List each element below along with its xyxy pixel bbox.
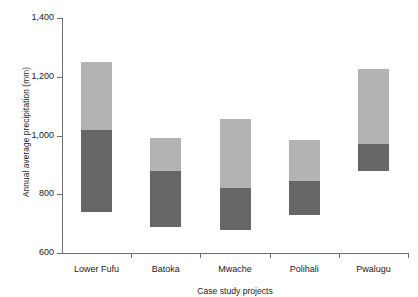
x-axis-tick-mark xyxy=(339,253,340,258)
bar-segment-lower xyxy=(220,188,251,229)
bar-batoka xyxy=(150,138,181,226)
bar-segment-upper xyxy=(289,140,320,181)
x-axis-category-label: Pwalugu xyxy=(339,264,408,274)
bar-polihali xyxy=(289,140,320,215)
precipitation-bar-chart: Annual average precipitation (mm) 600800… xyxy=(0,0,418,297)
y-axis-tick-label: 600 xyxy=(39,248,54,257)
y-axis-line xyxy=(62,18,63,254)
x-axis-category-label: Mwache xyxy=(200,264,269,274)
bar-mwache xyxy=(220,119,251,229)
bar-lower-fufu xyxy=(81,62,112,212)
x-axis-title: Case study projects xyxy=(62,286,408,296)
bar-pwalugu xyxy=(358,69,389,170)
bar-segment-upper xyxy=(358,69,389,144)
y-axis-tick-label: 1,400 xyxy=(31,13,54,22)
x-axis-tick-mark xyxy=(408,253,409,258)
y-axis-tick-label: 800 xyxy=(39,189,54,198)
bar-segment-lower xyxy=(150,171,181,227)
bar-segment-upper xyxy=(150,138,181,170)
y-axis-tick-label: 1,200 xyxy=(31,72,54,81)
bar-segment-lower xyxy=(358,144,389,170)
x-axis-tick-mark xyxy=(270,253,271,258)
y-axis-tick-mark xyxy=(57,136,62,137)
x-axis-category-label: Batoka xyxy=(131,264,200,274)
bar-segment-upper xyxy=(81,62,112,130)
y-axis-title: Annual average precipitation (mm) xyxy=(21,32,31,232)
x-axis-tick-mark xyxy=(200,253,201,258)
bar-segment-lower xyxy=(81,130,112,212)
y-axis-tick-mark xyxy=(57,194,62,195)
y-axis-tick-mark xyxy=(57,77,62,78)
x-axis-category-label: Polihali xyxy=(270,264,339,274)
x-axis-line xyxy=(62,253,408,254)
x-axis-tick-mark xyxy=(131,253,132,258)
y-axis-tick-mark xyxy=(57,253,62,254)
y-axis-tick-label: 1,000 xyxy=(31,131,54,140)
plot-area: 6008001,0001,2001,400 Lower FufuBatokaMw… xyxy=(62,18,408,253)
x-axis-category-label: Lower Fufu xyxy=(62,264,131,274)
bar-segment-upper xyxy=(220,119,251,188)
bar-segment-lower xyxy=(289,181,320,215)
y-axis-tick-mark xyxy=(57,18,62,19)
